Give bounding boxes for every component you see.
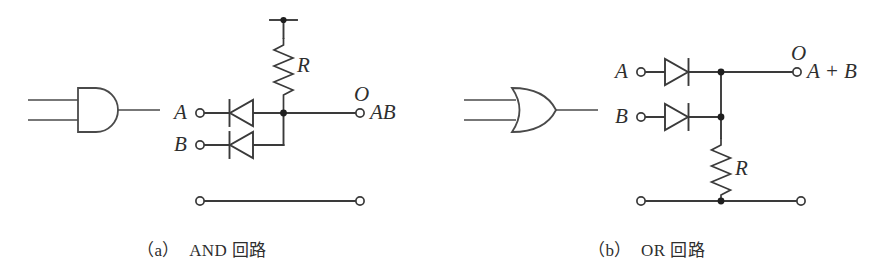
and-gate-symbol — [28, 88, 160, 132]
diode-a-bottom — [665, 59, 689, 85]
figure-root: A B R O AB A B R O A + B （a） AND 回路 （b） … — [0, 0, 877, 269]
circuit-diagram-canvas — [0, 0, 877, 269]
junction-dot-b-top — [718, 69, 725, 76]
label-output-terminal-and: O — [354, 84, 369, 105]
label-output-terminal-or: O — [791, 43, 806, 64]
junction-dot-a — [280, 110, 287, 117]
diode-a-top — [230, 100, 254, 126]
or-circuit-schematic — [637, 59, 805, 205]
label-input-a-or: A — [615, 61, 628, 82]
and-circuit-schematic — [196, 17, 364, 205]
output-branch-b — [721, 68, 801, 76]
ground-rail-b — [637, 197, 805, 205]
diode-b-top — [230, 132, 254, 158]
label-input-b-and: B — [174, 134, 187, 155]
label-resistor-and: R — [297, 55, 310, 76]
or-gate-symbol — [464, 88, 598, 132]
diode-b-bottom — [665, 104, 689, 130]
resistor-r-b — [712, 138, 731, 201]
caption-panel-a: （a） AND 回路 — [137, 236, 267, 261]
supply-terminal-a — [270, 17, 297, 38]
junction-dot-b-bottom — [718, 198, 725, 205]
junction-dot-b-mid — [718, 114, 725, 121]
resistor-r-a — [274, 38, 293, 113]
label-resistor-or: R — [735, 158, 748, 179]
ground-rail-a — [196, 197, 364, 205]
output-branch-a — [284, 109, 365, 117]
label-input-a-and: A — [174, 102, 187, 123]
label-output-expression-and: AB — [370, 102, 396, 123]
label-input-b-or: B — [615, 106, 628, 127]
label-output-expression-or: A + B — [807, 61, 857, 82]
caption-panel-b: （b） OR 回路 — [588, 236, 705, 261]
